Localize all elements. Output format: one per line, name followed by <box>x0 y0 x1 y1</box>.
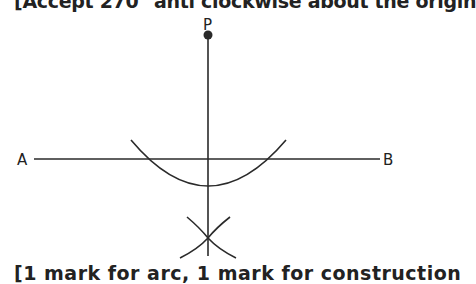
label-b: B <box>383 151 393 169</box>
label-a: A <box>17 151 28 169</box>
arc-from-left-intersection <box>187 217 236 258</box>
footer-note: [1 mark for arc, 1 mark for construction <box>14 262 461 284</box>
arc-from-right-intersection <box>180 217 230 258</box>
